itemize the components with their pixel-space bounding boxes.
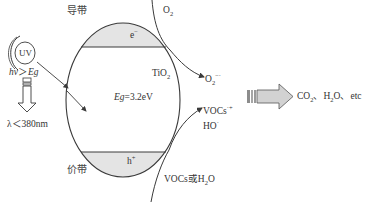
excitation-arrow: [67, 91, 86, 111]
hole-label: h+: [127, 157, 135, 167]
uv-label: UV: [19, 49, 32, 58]
superoxide-label: O2−·: [205, 75, 221, 85]
tio2-label: TiO2: [152, 69, 170, 79]
o2-reactant-label: O2: [163, 6, 173, 16]
vocs-water-reactant-label: VOCs或H2O: [164, 175, 215, 185]
valence-band-label: 价带: [67, 165, 87, 175]
wavelength-condition: λ＜380nm: [7, 120, 48, 130]
photon-arrow: [37, 62, 68, 88]
reduction-arrow: [152, 0, 204, 77]
vocs-radical-label: VOCs·+: [203, 107, 233, 117]
hydroxyl-radical-label: HO·: [203, 122, 219, 132]
final-products-label: CO2、H2O、etc: [297, 92, 362, 102]
conduction-band-label: 导带: [67, 6, 87, 16]
band-gap-label: Eg=3.2eV: [114, 93, 153, 103]
photon-energy-condition: hν＞Eg: [9, 68, 39, 78]
electron-label: e−: [130, 31, 138, 41]
photocatalysis-diagram: 导带 价带 e− h+ TiO2 Eg=3.2eV O2 O2−· VOCs·+…: [0, 0, 366, 202]
wavelength-down-arrow-icon: [18, 78, 36, 112]
conduction-band-fill: [60, 20, 190, 47]
result-arrow-icon: [247, 84, 293, 109]
